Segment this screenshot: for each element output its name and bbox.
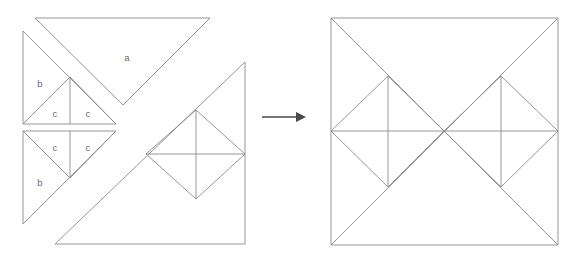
right-figure-group	[331, 18, 558, 245]
diamond-left	[331, 76, 444, 187]
label-c-bottom-right: c	[86, 142, 91, 153]
geometry-svg: a b b c c c c	[0, 0, 583, 263]
triangle-c-bottom-right-edge	[70, 131, 116, 178]
left-figure-group: a b b c c c c	[23, 18, 245, 244]
label-b-bottom: b	[37, 177, 42, 188]
arrow-head-icon	[296, 112, 306, 122]
triangle-c-top-right-edge	[70, 77, 116, 124]
label-c-top-right: c	[86, 108, 91, 119]
label-b-top: b	[37, 78, 42, 89]
triangle-c-bottom-left-edge	[23, 131, 70, 178]
diagram-canvas: a b b c c c c	[0, 0, 583, 263]
label-c-top-left: c	[53, 108, 58, 119]
triangle-c-top-left-edge	[23, 77, 70, 124]
triangle-big-lower-right	[55, 62, 245, 244]
arrow-group	[262, 112, 306, 122]
label-c-bottom-left: c	[53, 142, 58, 153]
triangle-a	[35, 18, 210, 105]
diamond-left-figure	[146, 110, 245, 199]
label-a: a	[124, 52, 130, 63]
